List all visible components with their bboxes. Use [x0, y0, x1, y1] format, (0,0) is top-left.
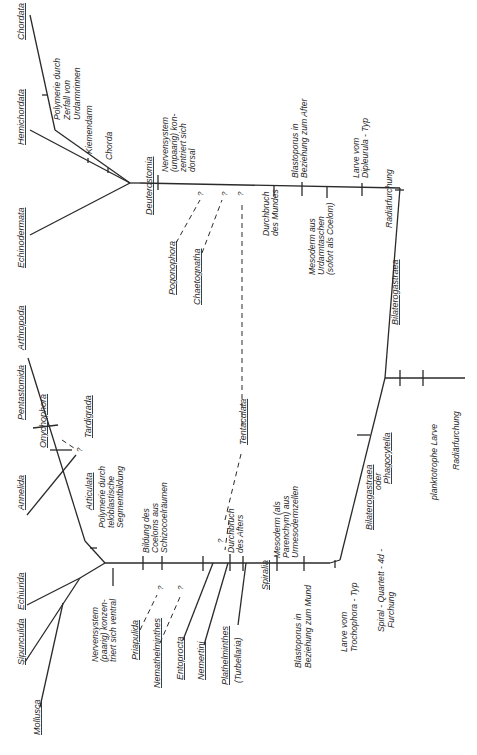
char-polymerie-urdarm-1: Polymerie durch: [52, 58, 62, 120]
taxon-deuterostomia: Deuterostomia: [144, 156, 154, 215]
char-polymerie-urdarm-3: Urdarmrinnen: [72, 67, 82, 120]
char-nervensystem-dorsal-4: dorsal: [187, 148, 197, 172]
taxon-mollusca: Mollusca: [32, 699, 42, 735]
taxon-priapulida: Priapulida: [130, 620, 140, 660]
char-polymerie-teloblast-3: Segmentbildung: [115, 466, 125, 528]
branch-echiurida: [27, 578, 80, 605]
char-polymerie-urdarm-2: Zerfall von: [62, 80, 72, 121]
taxon-nemertini: Nemertini: [196, 640, 206, 680]
char-blastoporus-mund-2: Beziehung zum Mund: [303, 585, 313, 668]
char-mesoderm-coelom-3: (sofort als Coelom): [325, 202, 335, 275]
char-radiaerfurchung-1: Radiärfurchung: [384, 169, 394, 228]
taxon-onychophora: Onychophora: [38, 394, 48, 448]
char-blastoporus-after-2: Beziehung zum After: [299, 97, 309, 178]
char-kiemendarm: Kiemendarm: [84, 105, 94, 154]
char-spiral-quartett-2: Furchung: [386, 591, 396, 628]
taxon-entoprocta: Entoprocta: [175, 636, 185, 680]
taxon-plathelminthes: Plathelminthes: [220, 625, 230, 685]
uncertain-marker-tentaculata-lower: ?: [216, 538, 225, 543]
uncertain-marker-tardigrada: ?: [75, 447, 84, 452]
char-larve-trochophora-1: Larve vom: [339, 612, 349, 652]
taxon-annelida: Annelida: [16, 475, 26, 511]
uncertain-marker-pogonophora: ?: [196, 191, 205, 196]
branch-mollusca: [40, 603, 63, 707]
char-blastoporus-mund-1: Blastoporus in: [293, 613, 303, 668]
taxon-spiralia: Spiralia: [260, 560, 270, 590]
taxon-nemathelminthes: Nemathelminthes: [152, 617, 162, 688]
phylogenetic-tree-diagram: Chordata Hemichordata Echinodermata Deut…: [0, 0, 477, 755]
char-larve-dipleurula-2: Dipleurula - Typ: [360, 118, 370, 178]
taxon-hemichordata: Hemichordata: [16, 89, 26, 145]
taxon-sipunculida: Sipunculida: [16, 618, 26, 665]
branch-echinodermata: [30, 183, 130, 235]
taxon-bilaterogastraea-upper: Bilaterogastraea: [390, 259, 400, 325]
char-mesoderm-parenchym-3: Urmesodermzellen: [290, 486, 300, 558]
taxon-tardigrada: Tardigrada: [83, 395, 93, 438]
taxon-turbellaria: (Turbellaria): [233, 637, 243, 683]
branch-articulata: [85, 541, 105, 563]
taxon-chordata: Chordata: [16, 3, 26, 40]
branch-annelida: [27, 455, 76, 515]
taxon-echiurida: Echiurida: [16, 572, 26, 610]
char-planktotrophe-larve: planktotrophe Larve: [429, 424, 439, 501]
labels: Chordata Hemichordata Echinodermata Deut…: [16, 3, 461, 735]
branch-mollusca-group: [80, 563, 105, 578]
char-bildung-coelom-3: Schizocoelräumen: [159, 482, 169, 553]
branch-plathelminthes: [238, 563, 246, 625]
taxon-arthropoda: Arthropoda: [16, 305, 26, 351]
char-radiaerfurchung-2: Radiärfurchung: [451, 411, 461, 470]
uncertain-marker-nemathelminthes: ?: [176, 585, 185, 590]
char-spiral-quartett-1: Spiral - Quartett - 4d -: [376, 549, 386, 632]
uncertain-marker-chaetognatha: ?: [220, 191, 229, 196]
char-chorda: Chorda: [104, 132, 114, 160]
char-larve-trochophora-2: Trochophora - Typ: [349, 582, 359, 652]
taxon-chaetognatha: Chaetognatha: [192, 248, 202, 305]
branch-hemichordata: [30, 130, 130, 183]
taxon-echinodermata: Echinodermata: [16, 207, 26, 268]
char-durchbruch-mund-2: des Mundes: [270, 188, 280, 236]
deuterostomia-axis: [140, 183, 400, 188]
taxon-articulata: Articulata: [84, 472, 94, 511]
taxon-pogonophora: Pogonophora: [167, 241, 177, 295]
char-durchbruch-after-2: des Afters: [235, 514, 245, 553]
taxon-pentastomida: Pentastomida: [16, 365, 26, 420]
char-nervensystem-ventral-3: triert sich ventral: [108, 598, 118, 662]
uncertain-marker-tentaculata: ?: [236, 191, 245, 196]
uncertain-marker-priapulida: ?: [156, 585, 165, 590]
taxon-tentaculata: Tentaculata: [238, 399, 248, 445]
taxon-phagocytella: Phagocytella: [382, 432, 392, 484]
branch-bilaterogastraea-left: [340, 378, 385, 560]
